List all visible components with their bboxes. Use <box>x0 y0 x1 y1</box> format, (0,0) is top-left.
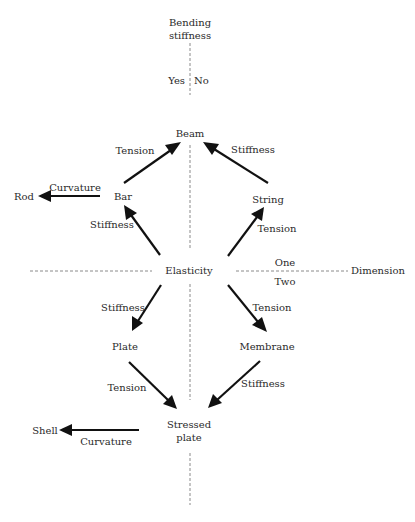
arrow-stressed-plate-to-shell <box>59 424 139 436</box>
arrowhead-icon <box>59 424 72 436</box>
vertical-axis-title-line1: Bending <box>169 17 212 28</box>
edge-label-elasticity-to-bar: Stiffness <box>90 219 134 230</box>
node-shell: Shell <box>32 425 58 436</box>
edge-label-elasticity-to-string: Tension <box>257 223 297 234</box>
arrowhead-icon <box>203 142 219 155</box>
arrowhead-icon <box>252 317 267 332</box>
edge-label-string-to-beam: Stiffness <box>231 144 275 155</box>
elasticity-classification-diagram: Bending stiffness Yes No One Two Dimensi… <box>0 0 415 522</box>
node-stressed-plate-line2: plate <box>176 432 202 443</box>
node-rod: Rod <box>14 191 35 202</box>
node-beam: Beam <box>176 128 205 139</box>
horizontal-axis-dimension-label: Dimension <box>351 265 405 276</box>
arrowhead-icon <box>251 207 264 221</box>
node-string: String <box>252 194 284 205</box>
arrowhead-icon <box>124 205 137 220</box>
edge-label-elasticity-to-membrane: Tension <box>252 302 292 313</box>
edge-label-membrane-to-stressed-plate: Stiffness <box>241 378 285 389</box>
horizontal-axis-one-label: One <box>275 257 296 268</box>
arrow-elasticity-to-bar <box>124 205 160 255</box>
node-membrane: Membrane <box>239 341 294 352</box>
vertical-axis-title-line2: stiffness <box>169 30 211 41</box>
arrowhead-icon <box>132 316 143 331</box>
edge-label-plate-to-stressed-plate: Tension <box>107 382 147 393</box>
node-plate: Plate <box>112 341 138 352</box>
horizontal-axis-two-label: Two <box>275 276 296 287</box>
vertical-axis-yes-label: Yes <box>167 75 185 86</box>
node-stressed-plate-line1: Stressed <box>167 419 212 430</box>
edge-label-bar-to-rod: Curvature <box>49 182 101 193</box>
edge-label-bar-to-beam: Tension <box>115 145 155 156</box>
vertical-axis-no-label: No <box>194 75 209 86</box>
node-elasticity: Elasticity <box>165 265 213 276</box>
edge-label-stressed-plate-to-shell: Curvature <box>80 436 132 447</box>
edge-label-elasticity-to-plate: Stiffness <box>101 302 145 313</box>
node-bar: Bar <box>114 191 132 202</box>
